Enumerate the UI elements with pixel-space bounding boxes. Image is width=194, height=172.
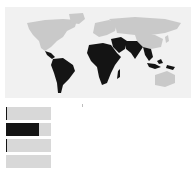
bar-fill-1 bbox=[6, 107, 7, 120]
bar-row-4[interactable] bbox=[6, 155, 51, 168]
region-madagascar[interactable] bbox=[117, 69, 120, 79]
legend-tick-mark bbox=[82, 104, 83, 107]
region-australia[interactable] bbox=[155, 71, 175, 87]
bar-row-3[interactable] bbox=[6, 139, 51, 152]
region-southeast-asia[interactable] bbox=[143, 47, 153, 61]
bar-row-1[interactable] bbox=[6, 107, 51, 120]
bar-fill-2 bbox=[6, 123, 39, 136]
world-map bbox=[5, 7, 191, 98]
region-south-america[interactable] bbox=[51, 58, 75, 93]
region-russia[interactable] bbox=[109, 17, 181, 35]
world-map-svg bbox=[5, 7, 191, 98]
region-greenland[interactable] bbox=[69, 13, 85, 24]
region-japan[interactable] bbox=[165, 35, 169, 43]
bar-chart bbox=[6, 107, 51, 171]
region-papua-new-guinea[interactable] bbox=[166, 65, 175, 70]
bar-fill-3 bbox=[6, 139, 7, 152]
bar-row-2[interactable] bbox=[6, 123, 51, 136]
region-north-america[interactable] bbox=[27, 19, 77, 51]
region-central-america[interactable] bbox=[45, 51, 55, 59]
